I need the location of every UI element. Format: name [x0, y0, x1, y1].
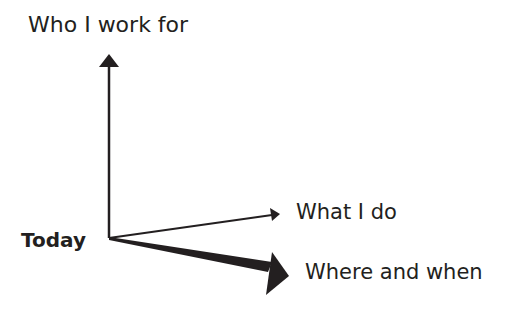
axis-label-where-and-when: Where and when — [305, 260, 483, 284]
career-dimensions-diagram: Who I work for Today What I do Where and… — [0, 0, 511, 314]
axis-label-who-i-work-for: Who I work for — [28, 12, 188, 37]
who-i-work-for-arrow — [99, 54, 119, 238]
where-and-when-arrow — [109, 237, 289, 295]
what-i-do-arrow — [109, 208, 280, 238]
axis-label-what-i-do: What I do — [296, 200, 397, 224]
origin-label-today: Today — [21, 228, 86, 252]
